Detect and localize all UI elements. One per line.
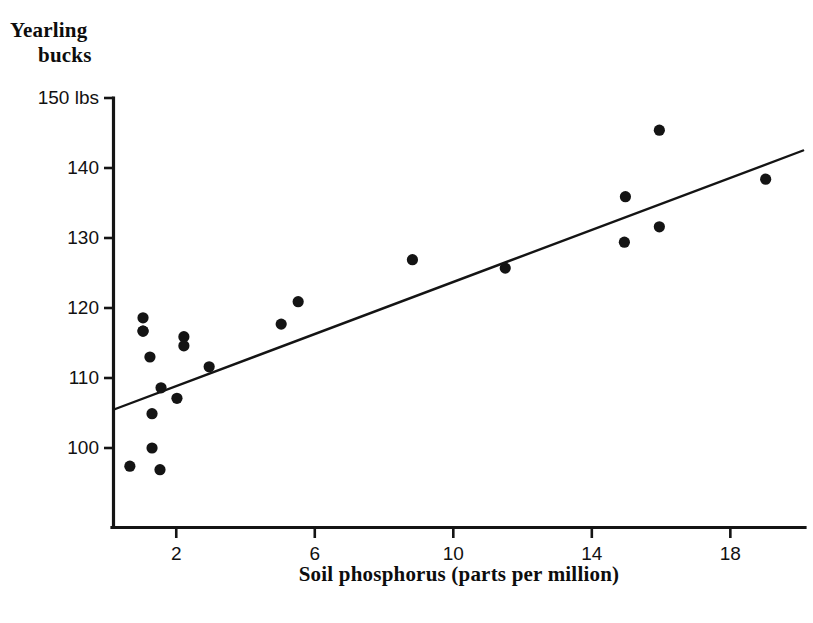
data-point [654,221,665,232]
data-point [500,263,511,274]
data-point [619,237,630,248]
data-point [146,408,157,419]
data-point [154,464,165,475]
data-point [155,382,166,393]
data-point [654,125,665,136]
data-point [137,326,148,337]
regression-line [114,151,803,410]
data-point [144,351,155,362]
data-point [124,461,135,472]
plot-area [0,0,813,623]
data-point [760,174,771,185]
data-point-group [124,125,771,476]
data-point [276,319,287,330]
data-point [204,361,215,372]
data-point [146,442,157,453]
data-point [293,296,304,307]
chart-figure: Yearling bucks Soil phosphorus (parts pe… [0,0,813,623]
data-point [620,191,631,202]
data-point [178,340,189,351]
data-point [137,312,148,323]
data-point [407,254,418,265]
data-point [171,393,182,404]
